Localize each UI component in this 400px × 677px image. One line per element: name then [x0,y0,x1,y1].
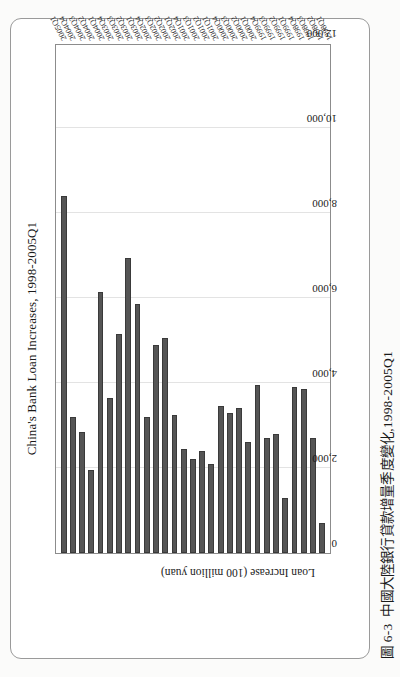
bar[interactable] [172,415,178,553]
figure-caption: 圖 6-3 中國大陸銀行貸款增量季度變化,1998-2005Q1 [376,351,396,659]
value-axis-ticks: 02,0004,0006,0008,00010,00012,000 [335,44,375,554]
plot-area [55,44,331,554]
bar-row [133,45,142,553]
bar[interactable] [135,304,141,553]
bar[interactable] [70,417,76,553]
bar-row [244,45,253,553]
bar[interactable] [125,258,131,553]
figure-rotated-container: 圖 6-3 中國大陸銀行貸款增量季度變化,1998-2005Q1 China's… [0,0,400,677]
bar-row [253,45,262,553]
value-axis-tick-label: 10,000 [307,113,337,125]
bar-row [207,45,216,553]
bar[interactable] [255,385,261,553]
bar-row [262,45,271,553]
bar[interactable] [208,464,214,553]
bar-row [234,45,243,553]
value-axis-tick-label: 0 [332,538,338,550]
bar-row [188,45,197,553]
bar-row [96,45,105,553]
bar[interactable] [273,434,279,553]
bar-row [170,45,179,553]
bar-row [87,45,96,553]
bar-row [142,45,151,553]
bar-series [56,45,330,553]
bar-row [225,45,234,553]
bar-row [179,45,188,553]
bar[interactable] [107,398,113,553]
bar[interactable] [282,498,288,553]
bar[interactable] [292,387,298,553]
bar-row [271,45,280,553]
bar[interactable] [153,345,159,553]
bar[interactable] [227,413,233,553]
bar-row [281,45,290,553]
bar[interactable] [319,523,325,553]
bar[interactable] [264,438,270,553]
bar[interactable] [236,409,242,554]
value-axis-tick-label: 2,000 [312,453,337,465]
value-axis-title: Loan Increase (100 million yuan) [95,564,381,582]
bar[interactable] [190,460,196,554]
category-axis-ticks: 1998Q11998Q21998Q31998Q41999Q11999Q21999… [55,0,331,40]
bar[interactable] [144,417,150,553]
bar[interactable] [116,334,122,553]
figure-number: 圖 6-3 [376,624,396,659]
bar[interactable] [245,443,251,554]
bar-row [198,45,207,553]
bar-row [216,45,225,553]
bar-row [77,45,86,553]
bar[interactable] [199,451,205,553]
bar[interactable] [162,338,168,553]
bar-row [161,45,170,553]
bar-row [59,45,68,553]
bar[interactable] [98,292,104,553]
bar[interactable] [181,449,187,553]
bar-row [290,45,299,553]
value-axis-tick-label: 4,000 [312,368,337,380]
value-axis-title-label: Loan Increase (100 million yuan) [161,567,315,579]
bar[interactable] [301,389,307,553]
bar-row [124,45,133,553]
bar[interactable] [79,432,85,553]
bar[interactable] [61,196,67,553]
plot-wrapper: Loan Increase (100 million yuan) 02,0004… [51,35,359,588]
bar[interactable] [88,470,94,553]
bar[interactable] [218,406,224,553]
value-axis-tick-label: 6,000 [312,283,337,295]
chart-title: China's Bank Loan Increases, 1998-2005Q1 [24,19,40,658]
chart-frame: China's Bank Loan Increases, 1998-2005Q1… [10,18,370,659]
bar-row [68,45,77,553]
value-axis-tick-label: 8,000 [312,198,337,210]
bar-row [114,45,123,553]
bar-row [105,45,114,553]
bar-row [151,45,160,553]
